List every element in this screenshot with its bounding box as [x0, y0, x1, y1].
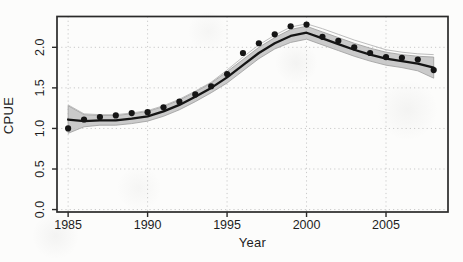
- data-point: [240, 50, 246, 56]
- data-point: [81, 116, 87, 122]
- data-point: [256, 40, 262, 46]
- data-point: [129, 110, 135, 116]
- data-point: [224, 71, 230, 77]
- data-point: [303, 22, 309, 28]
- x-tick-label: 1995: [213, 218, 241, 232]
- y-tick-label: 1.5: [33, 79, 47, 96]
- x-tick-label: 2005: [372, 218, 400, 232]
- y-tick-label: 0.5: [33, 160, 47, 177]
- data-point: [97, 114, 103, 120]
- x-tick-label: 2000: [293, 218, 321, 232]
- cpue-trend-figure: 198519901995200020050.00.51.01.52.0 Year…: [0, 0, 463, 262]
- data-point: [144, 109, 150, 115]
- data-point: [415, 56, 421, 62]
- data-point: [383, 54, 389, 60]
- confidence-band: [68, 26, 434, 133]
- data-point: [113, 112, 119, 118]
- x-tick-label: 1985: [54, 218, 82, 232]
- smoothed-cpue-line: [68, 33, 434, 121]
- data-point: [367, 50, 373, 56]
- data-point: [319, 34, 325, 40]
- data-point: [288, 23, 294, 29]
- x-axis-title: Year: [57, 235, 448, 250]
- data-point: [335, 38, 341, 44]
- y-axis-title: CPUE: [1, 71, 16, 161]
- data-point: [176, 99, 182, 105]
- y-tick-label: 1.0: [33, 120, 47, 137]
- y-tick-label: 0.0: [33, 201, 47, 218]
- data-point: [272, 31, 278, 37]
- data-point: [65, 125, 71, 131]
- data-point: [192, 91, 198, 97]
- x-tick-label: 1990: [134, 218, 162, 232]
- y-tick-label: 2.0: [33, 39, 47, 56]
- data-point: [431, 67, 437, 73]
- data-point: [399, 55, 405, 61]
- data-point: [160, 104, 166, 110]
- data-point: [351, 44, 357, 50]
- bootstrap-envelope-line: [68, 24, 434, 115]
- cpue-chart-canvas: 198519901995200020050.00.51.01.52.0: [0, 0, 463, 262]
- data-point: [208, 83, 214, 89]
